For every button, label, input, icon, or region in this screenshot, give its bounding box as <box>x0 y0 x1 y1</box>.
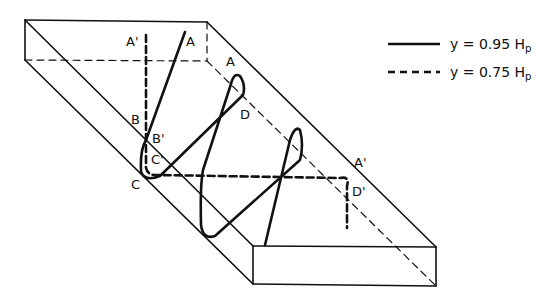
label-c: C <box>131 177 140 192</box>
label-a-prime-top: A' <box>126 34 138 49</box>
label-a-top: A <box>186 34 195 49</box>
label-d-prime: D' <box>352 184 366 199</box>
path-solid <box>141 32 302 245</box>
label-a-prime-right: A' <box>354 155 366 170</box>
legend-dashed-label: y = 0.75 Hp <box>450 64 531 82</box>
label-b: B <box>131 112 140 127</box>
label-a-mid: A <box>226 54 235 69</box>
channel-diagram: A' A A B B' C' C D A' D' y = 0.95 Hp y =… <box>0 0 554 302</box>
legend: y = 0.95 Hp y = 0.75 Hp <box>388 36 531 82</box>
label-c-prime: C' <box>151 152 164 167</box>
legend-solid-label: y = 0.95 Hp <box>450 36 531 54</box>
label-b-prime: B' <box>152 131 165 146</box>
label-d: D <box>240 107 250 122</box>
